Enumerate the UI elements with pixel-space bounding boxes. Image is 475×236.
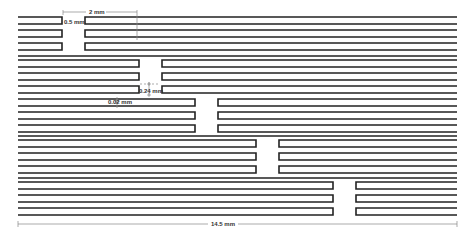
strip-group-5 [18, 182, 457, 215]
strip-group-4 [18, 140, 457, 173]
dimension-total-width: 14.5 mm [18, 220, 457, 228]
strip-layout-diagram: 2 mm 0.5 mm 0.24 mm 0.02 mm 14.5 mm [0, 0, 475, 236]
dimension-strip-spacing: 0.24 mm [139, 82, 163, 96]
strip-group-2 [18, 60, 457, 93]
label-gap-width: 0.5 mm [64, 19, 85, 25]
label-strip-spacing: 0.24 mm [139, 88, 163, 94]
label-strip-height: 0.02 mm [108, 99, 132, 105]
label-segment-length: 2 mm [89, 9, 105, 15]
strip-group-3 [18, 99, 457, 132]
dimension-gap-width: 0.5 mm [64, 19, 85, 25]
label-total-width: 14.5 mm [211, 221, 235, 227]
